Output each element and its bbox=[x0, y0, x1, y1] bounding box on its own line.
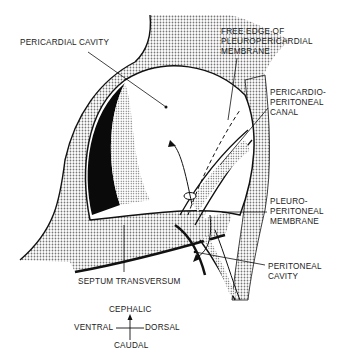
label-peritoneal-2: CAVITY bbox=[268, 272, 298, 282]
label-pp-canal-1: PERICARDIO- bbox=[270, 88, 326, 98]
label-cephalic: CEPHALIC bbox=[109, 305, 152, 315]
label-pericardial-cavity: PERICARDIAL CAVITY bbox=[20, 38, 109, 48]
label-pleuro-3: MEMBRANE bbox=[270, 217, 319, 227]
embryo-diagram bbox=[0, 0, 338, 359]
label-ventral: VENTRAL bbox=[74, 323, 113, 333]
label-pp-canal-3: CANAL bbox=[270, 108, 298, 118]
label-pleuro-1: PLEURO- bbox=[270, 197, 308, 207]
label-caudal: CAUDAL bbox=[114, 341, 148, 351]
label-peritoneal-1: PERITONEAL bbox=[268, 262, 322, 272]
orientation-compass bbox=[116, 314, 144, 340]
label-dorsal: DORSAL bbox=[145, 323, 180, 333]
label-free-edge-3: MEMBRANE bbox=[221, 47, 270, 57]
label-pleuro-2: PERITONEAL bbox=[270, 207, 324, 217]
label-free-edge-2: PLEUROPERICARDIAL bbox=[221, 37, 313, 47]
label-pp-canal-2: PERITONEAL bbox=[270, 98, 324, 108]
label-septum-transversum: SEPTUM TRANSVERSUM bbox=[78, 277, 181, 287]
label-free-edge-1: FREE EDGE OF bbox=[221, 27, 284, 37]
